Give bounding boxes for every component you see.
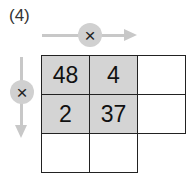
grid-cell-r1c2: 4 bbox=[89, 55, 138, 95]
grid-cell-r1c1: 48 bbox=[41, 55, 90, 95]
arrow-down-icon bbox=[15, 125, 27, 138]
multiply-icon-vertical: × bbox=[10, 80, 34, 104]
grid-cell-r2c3[interactable] bbox=[137, 94, 186, 134]
multiply-icon-horizontal: × bbox=[78, 23, 102, 47]
arrow-right-icon bbox=[124, 29, 137, 41]
grid-cell-r3c1[interactable] bbox=[41, 133, 90, 173]
grid-cell-r2c1: 2 bbox=[41, 94, 90, 134]
problem-label: (4) bbox=[9, 6, 30, 26]
grid-cell-r1c3[interactable] bbox=[137, 55, 186, 95]
grid-cell-r3c2[interactable] bbox=[89, 133, 138, 173]
grid-cell-r2c2: 37 bbox=[89, 94, 138, 134]
